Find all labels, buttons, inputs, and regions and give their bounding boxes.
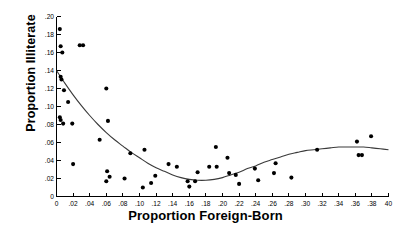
x-tick-label: .10 — [135, 200, 144, 207]
x-tick-label: .18 — [201, 200, 210, 207]
data-point — [123, 176, 127, 180]
data-point — [289, 176, 293, 180]
x-tick-label: 40 — [385, 200, 393, 207]
data-points — [58, 27, 373, 190]
x-tick-label: .22 — [235, 200, 244, 207]
x-tick-label: .12 — [152, 200, 161, 207]
y-tick-label: .18 — [45, 31, 54, 38]
data-point — [104, 179, 108, 183]
x-tick-label: .20 — [218, 200, 227, 207]
plot-area: 0.02.04.06.08.10.12.14.16.18.20.22.24.26… — [0, 0, 411, 237]
data-point — [66, 100, 70, 104]
data-point — [315, 148, 319, 152]
data-point — [360, 153, 364, 157]
data-point — [214, 145, 218, 149]
y-tick-label: .14 — [45, 67, 54, 74]
data-point — [237, 182, 241, 186]
data-point — [106, 119, 110, 123]
x-tick-label: .06 — [102, 200, 111, 207]
data-point — [59, 77, 63, 81]
y-tick-label: .04 — [45, 157, 54, 164]
data-point — [227, 171, 231, 175]
y-tick-label: .02 — [45, 175, 54, 182]
data-point — [272, 171, 276, 175]
data-point — [167, 162, 171, 166]
data-point — [104, 86, 108, 90]
x-tick-label: .34 — [334, 200, 343, 207]
data-point — [142, 148, 146, 152]
x-tick-label: .38 — [367, 200, 376, 207]
data-point — [153, 174, 157, 178]
data-point — [193, 179, 197, 183]
data-point — [59, 118, 63, 122]
x-tick-label: .28 — [284, 200, 293, 207]
y-tick-label: .16 — [45, 49, 54, 56]
x-axis-label: Proportion Foreign-Born — [0, 208, 411, 223]
data-point — [128, 151, 132, 155]
data-point — [225, 156, 229, 160]
data-point — [105, 169, 109, 173]
x-tick-label: .14 — [168, 200, 177, 207]
data-point — [196, 170, 200, 174]
data-point — [59, 44, 63, 48]
data-point — [175, 165, 179, 169]
data-point — [215, 165, 219, 169]
data-point — [70, 122, 74, 126]
y-tick-label: .20 — [45, 13, 54, 20]
x-tick-label: .32 — [318, 200, 327, 207]
data-point — [149, 181, 153, 185]
y-axis-ticks: 0.02.04.06.08.10.12.14.16.18.20 — [45, 13, 61, 200]
y-tick-label: .06 — [45, 139, 54, 146]
y-tick-label: .12 — [45, 85, 54, 92]
y-tick-label: .08 — [45, 121, 54, 128]
data-point — [61, 122, 65, 126]
data-point — [141, 185, 145, 189]
data-point — [234, 173, 238, 177]
x-tick-label: .08 — [118, 200, 127, 207]
plot-canvas: 0.02.04.06.08.10.12.14.16.18.20.22.24.26… — [0, 0, 411, 237]
data-point — [71, 162, 75, 166]
y-tick-label: 0 — [50, 193, 54, 200]
data-point — [207, 165, 211, 169]
x-tick-label: .30 — [301, 200, 310, 207]
data-point — [62, 88, 66, 92]
data-point — [187, 185, 191, 189]
data-point — [186, 179, 190, 183]
x-axis-ticks: 0.02.04.06.08.10.12.14.16.18.20.22.24.26… — [55, 193, 393, 208]
x-tick-label: 0 — [55, 200, 59, 207]
scatter-plot-figure: Proportion Illiterate 0.02.04.06.08.10.1… — [0, 0, 411, 237]
data-point — [253, 167, 257, 171]
data-point — [58, 27, 62, 31]
data-point — [108, 175, 112, 179]
x-tick-label: .24 — [251, 200, 260, 207]
y-tick-label: .10 — [45, 103, 54, 110]
data-point — [81, 43, 85, 47]
x-tick-label: .02 — [69, 200, 78, 207]
x-tick-label: .36 — [351, 200, 360, 207]
data-point — [369, 134, 373, 138]
x-tick-label: .04 — [85, 200, 94, 207]
data-point — [60, 50, 64, 54]
data-point — [274, 161, 278, 165]
data-point — [355, 140, 359, 144]
data-point — [256, 178, 260, 182]
x-tick-label: .26 — [268, 200, 277, 207]
data-point — [98, 138, 102, 142]
x-tick-label: .16 — [185, 200, 194, 207]
